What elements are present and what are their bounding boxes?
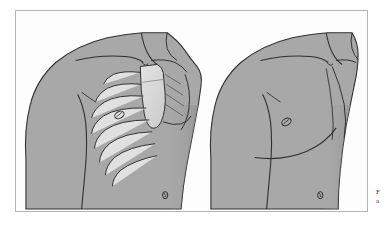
left-panel [25,33,204,209]
caption-line-1: F [376,188,390,197]
right-lateral-shadow [320,105,362,209]
anatomy-illustration [16,11,367,211]
caption-line-2: a [376,197,390,206]
figure-frame [15,10,368,212]
left-lateral-shadow [165,105,205,209]
figure-caption-cropped: F a [376,188,390,210]
right-panel [210,33,362,209]
illustration-page: F a [0,0,390,231]
